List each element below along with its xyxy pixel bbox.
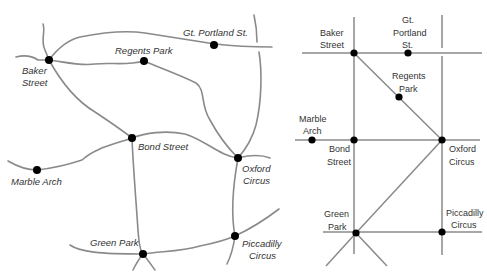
- label-marble-arch-1: Marble: [299, 114, 327, 124]
- label-oxford-circus-1: Oxford: [242, 163, 271, 174]
- label-regents-park-2: Park: [399, 84, 418, 94]
- label-piccadilly-circus-2: Circus: [249, 250, 276, 261]
- road-baker-regents: [49, 60, 144, 65]
- station-green-park: [139, 250, 147, 258]
- road-greenpark-piccadilly: [143, 236, 235, 254]
- station-bond-street: [350, 136, 357, 143]
- label-gt-portland-st: Gt. Portland St.: [183, 27, 248, 38]
- road-oxford-east: [238, 155, 270, 158]
- label-piccadilly-circus-2: Circus: [451, 220, 477, 230]
- road-gtportland-north: [254, 15, 257, 42]
- station-piccadilly-circus: [231, 232, 239, 240]
- label-bond-street-1: Bond: [329, 144, 350, 154]
- station-marble-arch: [33, 166, 41, 174]
- road-baker-west: [16, 56, 49, 60]
- label-marble-arch: Marble Arch: [11, 176, 62, 187]
- label-gt-portland-st-2: Portland: [393, 28, 427, 38]
- label-gt-portland-st-3: St.: [402, 40, 413, 50]
- label-gt-portland-st-1: Gt.: [402, 15, 414, 25]
- label-oxford-circus-2: Circus: [243, 175, 270, 186]
- geographic-map: Baker Street Regents Park Gt. Portland S…: [8, 15, 283, 270]
- station-piccadilly-circus: [438, 228, 445, 235]
- label-baker-street-2: Street: [22, 77, 48, 88]
- station-oxford-circus: [234, 154, 242, 162]
- station-baker-street: [45, 56, 53, 64]
- road-baker-bond: [49, 60, 132, 138]
- station-bond-street: [128, 134, 136, 142]
- label-baker-street-1: Baker: [22, 65, 48, 76]
- station-baker-street: [350, 49, 357, 56]
- label-bond-street: Bond Street: [138, 141, 189, 152]
- road-oxford-piccadilly: [233, 158, 238, 236]
- label-baker-street-1: Baker: [320, 28, 344, 38]
- station-green-park: [352, 229, 359, 236]
- map-comparison: Baker Street Regents Park Gt. Portland S…: [0, 0, 487, 276]
- label-bond-street-2: Street: [327, 157, 352, 167]
- station-marble-arch: [308, 136, 315, 143]
- label-marble-arch-2: Arch: [303, 126, 322, 136]
- line-greenpark-sw: [326, 233, 356, 266]
- road-piccadilly-east: [235, 209, 279, 236]
- label-green-park-2: Park: [328, 222, 347, 232]
- schematic-map: Baker Street Gt. Portland St. Regents Pa…: [295, 15, 484, 266]
- label-oxford-circus-1: Oxford: [449, 144, 476, 154]
- label-regents-park: Regents Park: [115, 45, 174, 56]
- label-green-park: Green Park: [90, 237, 140, 248]
- station-regents-park: [395, 93, 402, 100]
- label-piccadilly-circus-1: Piccadilly: [242, 238, 283, 249]
- line-greenpark-oxford-diagonal: [356, 140, 442, 233]
- label-green-park-1: Green: [324, 209, 349, 219]
- road-marblearch-bond: [8, 138, 132, 170]
- line-greenpark-se: [356, 233, 387, 266]
- label-oxford-circus-2: Circus: [449, 157, 475, 167]
- label-piccadilly-circus-1: Piccadilly: [446, 208, 484, 218]
- station-oxford-circus: [438, 136, 445, 143]
- road-east-oxford: [238, 52, 261, 158]
- label-baker-street-2: Street: [320, 40, 345, 50]
- label-regents-park-1: Regents: [392, 71, 426, 81]
- road-baker-north: [43, 24, 49, 60]
- road-piccadilly-south: [227, 236, 235, 264]
- station-gt-portland-st: [404, 49, 411, 56]
- station-gt-portland-st: [210, 41, 218, 49]
- station-regents-park: [140, 57, 148, 65]
